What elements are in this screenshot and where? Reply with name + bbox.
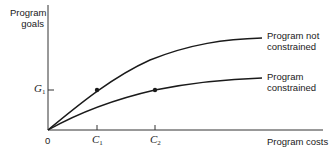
marker-c1-g1	[95, 88, 99, 92]
marker-c2-g1	[153, 88, 157, 92]
c1-subscript: 1	[99, 139, 103, 147]
y-tick-label-g1: G1	[34, 83, 45, 98]
x-axis-label: Program costs	[267, 136, 328, 147]
x-tick-label-c2: C2	[150, 134, 161, 149]
series-label-constrained-line1: Program	[267, 71, 316, 82]
series-label-not-constrained-line1: Program not	[267, 30, 319, 41]
x-tick-label-c1: C1	[92, 134, 103, 149]
curve-not-constrained	[48, 38, 262, 130]
y-axis-label: Program goals	[10, 7, 44, 29]
series-label-not-constrained: Program not constrained	[267, 30, 319, 52]
series-label-constrained-line2: constrained	[267, 82, 316, 93]
g-letter: G	[34, 82, 42, 94]
g-subscript: 1	[42, 88, 46, 96]
series-label-constrained: Program constrained	[267, 71, 316, 93]
y-axis-label-line1: Program	[10, 7, 44, 18]
c2-subscript: 2	[157, 139, 161, 147]
series-label-not-constrained-line2: constrained	[267, 41, 319, 52]
origin-label: 0	[45, 135, 50, 146]
y-axis-label-line2: goals	[10, 18, 44, 29]
